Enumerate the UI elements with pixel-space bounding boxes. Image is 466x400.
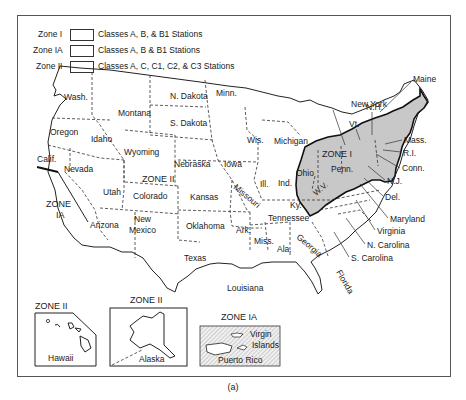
state-label-nj: N.J. — [387, 176, 402, 186]
inset-alaska: ZONE II Alaska — [110, 295, 187, 366]
state-label-texas: Texas — [184, 253, 206, 263]
state-label-arizona: Arizona — [90, 220, 119, 230]
inset-hawaii: ZONE II Hawaii — [35, 301, 96, 366]
state-label-penn: Penn. — [331, 164, 353, 174]
state-label-iowa: Iowa — [224, 159, 242, 169]
state-label-n-dakota: N. Dakota — [170, 91, 208, 101]
state-label-ala: Ala. — [277, 244, 292, 254]
state-label-new-mexico-2: Mexico — [129, 225, 156, 235]
state-label-maryland: Maryland — [390, 214, 425, 224]
us-map: Wash. Oregon Calif. Nevada Idaho Montana… — [0, 0, 466, 400]
state-label-virginia: Virginia — [377, 226, 405, 236]
state-label-wyoming: Wyoming — [124, 147, 160, 157]
state-label-ark: Ark. — [236, 225, 251, 235]
state-label-del: Del. — [385, 192, 400, 202]
state-labels: Wash. Oregon Calif. Nevada Idaho Montana… — [37, 74, 436, 296]
state-label-n-carolina: N. Carolina — [367, 240, 410, 250]
inset-hawaii-name: Hawaii — [48, 353, 74, 363]
inset-pr-zone: ZONE IA — [221, 312, 257, 322]
state-label-kansas: Kansas — [190, 192, 218, 202]
state-label-mass: Mass. — [404, 135, 427, 145]
state-label-wash: Wash. — [64, 92, 88, 102]
zone-ii-label: ZONE II — [142, 174, 175, 184]
state-label-louisiana: Louisiana — [227, 283, 264, 293]
state-label-ill: Ill. — [260, 179, 269, 189]
state-label-tennessee: Tennessee — [268, 213, 309, 223]
state-label-miss: Miss. — [254, 236, 274, 246]
state-label-missouri: Missouri — [232, 182, 263, 210]
inset-puerto-rico: ZONE IA Virgin Islands Puerto Rico — [200, 312, 280, 366]
inset-alaska-name: Alaska — [139, 354, 165, 364]
inset-pr-virgin-1: Virgin — [250, 329, 272, 339]
inset-hawaii-zone: ZONE II — [35, 301, 68, 311]
state-label-colorado: Colorado — [133, 191, 168, 201]
figure-caption: (a) — [0, 382, 466, 392]
state-label-nh: N.H. — [366, 102, 383, 112]
state-label-oklahoma: Oklahoma — [186, 221, 225, 231]
inset-alaska-zone: ZONE II — [130, 295, 163, 305]
state-label-calif: Calif. — [37, 154, 56, 164]
state-label-wis: Wis. — [247, 135, 264, 145]
state-label-utah: Utah — [103, 187, 121, 197]
state-label-idaho: Idaho — [91, 134, 113, 144]
state-label-montana: Montana — [118, 108, 151, 118]
state-label-s-carolina: S. Carolina — [351, 253, 393, 263]
state-label-minn: Minn. — [216, 88, 237, 98]
state-label-conn: Conn. — [402, 163, 425, 173]
state-label-maine: Maine — [413, 74, 436, 84]
inset-pr-virgin-2: Islands — [252, 340, 279, 350]
zone-i-label: ZONE I — [322, 149, 352, 159]
state-label-s-dakota: S. Dakota — [170, 118, 208, 128]
state-label-michigan: Michigan — [274, 136, 308, 146]
state-label-oregon: Oregon — [50, 127, 79, 137]
inset-pr-name: Puerto Rico — [218, 355, 263, 365]
state-label-georgia: Georgia — [295, 232, 325, 259]
state-label-florida: Florida — [334, 268, 356, 296]
state-label-ind: Ind. — [278, 178, 292, 188]
state-label-ky: Ky. — [290, 200, 302, 210]
state-label-ohio: Ohio — [296, 168, 314, 178]
state-label-new-mexico-1: New — [134, 214, 152, 224]
zone-ia-label-line2: IA — [56, 210, 65, 220]
zone-ia-label-line1: ZONE — [46, 199, 71, 209]
zone-ia-boundary — [37, 167, 58, 172]
state-label-nevada: Nevada — [64, 164, 94, 174]
state-label-ri: R.I. — [403, 148, 416, 158]
state-label-vt: Vt. — [349, 119, 359, 129]
state-label-nebraska: Nebraska — [174, 159, 211, 169]
